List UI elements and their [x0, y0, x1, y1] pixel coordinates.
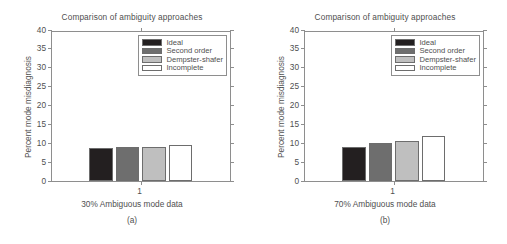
- y-tick-mark-right: [230, 48, 234, 49]
- bar-dempster-shafer: [395, 141, 419, 181]
- chart-title: Comparison of ambiguity approaches: [271, 12, 499, 22]
- bar-incomplete: [169, 145, 193, 181]
- legend-swatch-ideal: [395, 39, 415, 46]
- y-tick-mark-right: [230, 124, 234, 125]
- y-tick-mark-right: [483, 143, 487, 144]
- y-tick-mark-right: [483, 124, 487, 125]
- y-tick-label: 30: [290, 62, 299, 72]
- y-tick-label: 35: [37, 43, 46, 53]
- y-tick-mark: [301, 30, 305, 31]
- legend-item: Second order: [142, 47, 223, 55]
- plot-area-a: Percent mode misdiagnosis 05101520253035…: [51, 31, 231, 182]
- y-tick-mark-right: [230, 143, 234, 144]
- y-axis-label: Percent mode misdiagnosis: [276, 56, 286, 158]
- figure-two-panel-bar-charts: Comparison of ambiguity approaches Perce…: [0, 0, 507, 244]
- y-tick-label: 15: [290, 119, 299, 129]
- y-tick-label: 0: [294, 176, 299, 186]
- y-tick-mark: [48, 30, 52, 31]
- y-tick-mark-right: [483, 181, 487, 182]
- y-tick-mark-right: [230, 105, 234, 106]
- legend-label: Incomplete: [419, 64, 456, 72]
- y-tick-label: 5: [41, 157, 46, 167]
- y-tick-mark-right: [483, 105, 487, 106]
- plot-area-b: Percent mode misdiagnosis 05101520253035…: [304, 31, 484, 182]
- x-tick-label: 1: [137, 186, 142, 196]
- legend-label: Incomplete: [166, 64, 203, 72]
- legend-a: IdealSecond orderDempster-shaferIncomple…: [138, 35, 227, 76]
- y-tick-label: 10: [37, 138, 46, 148]
- x-axis-label: 70% Ambiguous mode data: [271, 199, 499, 209]
- bar-dempster-shafer: [142, 147, 166, 181]
- y-tick-label: 5: [294, 157, 299, 167]
- y-tick-mark-right: [230, 30, 234, 31]
- legend-swatch-dempster-shafer: [395, 56, 415, 63]
- y-tick-mark-right: [483, 162, 487, 163]
- y-tick-label: 35: [290, 43, 299, 53]
- y-tick-label: 0: [41, 176, 46, 186]
- chart-panel-a: Comparison of ambiguity approaches Perce…: [0, 0, 253, 244]
- legend-swatch-incomplete: [395, 65, 415, 72]
- legend-item: Incomplete: [142, 64, 223, 72]
- x-tick-label: 1: [390, 186, 395, 196]
- y-tick-mark-right: [483, 48, 487, 49]
- y-tick-mark-right: [230, 162, 234, 163]
- legend-label: Second order: [166, 47, 212, 55]
- y-tick-mark-right: [230, 86, 234, 87]
- y-tick-mark-right: [230, 67, 234, 68]
- y-tick-label: 10: [290, 138, 299, 148]
- legend-item: Second order: [395, 47, 476, 55]
- y-tick-label: 40: [290, 25, 299, 35]
- y-tick-label: 20: [37, 100, 46, 110]
- chart-panel-b: Comparison of ambiguity approaches Perce…: [253, 0, 506, 244]
- bar-incomplete: [422, 136, 446, 181]
- legend-swatch-dempster-shafer: [142, 56, 162, 63]
- legend-item: Incomplete: [395, 64, 476, 72]
- y-tick-label: 25: [37, 81, 46, 91]
- panel-caption: (a): [18, 215, 246, 225]
- x-axis-label: 30% Ambiguous mode data: [18, 199, 246, 209]
- bar-ideal: [89, 148, 113, 181]
- panel-caption: (b): [271, 215, 499, 225]
- x-tick-mark: [394, 181, 395, 185]
- y-tick-label: 30: [37, 62, 46, 72]
- x-tick-mark: [141, 181, 142, 185]
- y-tick-mark-right: [230, 181, 234, 182]
- y-tick-mark-right: [483, 86, 487, 87]
- y-axis-label: Percent mode misdiagnosis: [23, 56, 33, 158]
- y-tick-mark-right: [483, 67, 487, 68]
- y-tick-label: 25: [290, 81, 299, 91]
- legend-swatch-second-order: [142, 48, 162, 55]
- legend-swatch-second-order: [395, 48, 415, 55]
- legend-swatch-incomplete: [142, 65, 162, 72]
- y-tick-label: 15: [37, 119, 46, 129]
- legend-swatch-ideal: [142, 39, 162, 46]
- bar-second-order: [116, 147, 140, 181]
- y-tick-label: 40: [37, 25, 46, 35]
- chart-title: Comparison of ambiguity approaches: [18, 12, 246, 22]
- y-tick-label: 20: [290, 100, 299, 110]
- bar-ideal: [342, 147, 366, 181]
- bar-second-order: [369, 143, 393, 181]
- y-tick-mark-right: [483, 30, 487, 31]
- legend-b: IdealSecond orderDempster-shaferIncomple…: [391, 35, 480, 76]
- legend-label: Second order: [419, 47, 465, 55]
